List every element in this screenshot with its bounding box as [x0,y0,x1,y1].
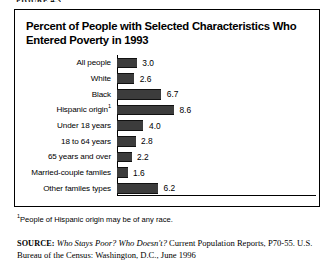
figure-footnote: 1People of Hispanic origin may be of any… [17,215,173,224]
bar-category-label: Under 18 years [15,121,117,130]
source-label: SOURCE: [17,239,55,248]
bar-wrapper: 2.6 [117,71,321,87]
bar-wrapper: 1.6 [117,165,321,181]
bar-row: White2.6 [15,71,321,87]
bar-value-label: 6.7 [167,89,179,99]
bar-value-label: 6.2 [164,183,176,193]
bar [117,152,132,163]
bar-row: Under 18 years4.0 [15,118,321,134]
bar-value-label: 1.6 [133,168,145,178]
bar [117,89,161,100]
bar-wrapper: 6.2 [117,181,321,197]
bar-row: 65 years and over2.2 [15,149,321,165]
source-publication-title: Who Stays Poor? Who Doesn't? [57,238,167,248]
bar-value-label: 2.2 [137,152,149,162]
bar-wrapper: 4.0 [117,118,321,134]
bar-rows: All people3.0White2.6Black6.7Hispanic or… [15,55,321,196]
bar-row: Other familes types6.2 [15,181,321,197]
bar-value-label: 8.6 [179,105,191,115]
bar [117,58,137,69]
bar [117,136,136,147]
category-footnote-marker: 1 [108,104,111,110]
bar-value-label: 2.8 [141,136,153,146]
bar-wrapper: 6.7 [117,86,321,102]
bar-category-label: 18 to 64 years [15,137,117,146]
bar-value-label: 4.0 [149,121,161,131]
bar-wrapper: 8.6 [117,102,321,118]
bar [117,167,128,178]
bar-row: Married-couple familes1.6 [15,165,321,181]
bar [117,120,143,131]
bar-row: 18 to 64 years2.8 [15,133,321,149]
bar-wrapper: 2.8 [117,133,321,149]
bar-category-label: Hispanic origin1 [15,105,117,114]
bar-wrapper: 3.0 [117,55,321,71]
figure-frame: Percent of People with Selected Characte… [14,9,320,207]
bar-category-label: Black [15,90,117,99]
bar-wrapper: 2.2 [117,149,321,165]
bar-category-label: 65 years and over [15,152,117,161]
bar-row: All people3.0 [15,55,321,71]
bar [117,105,174,116]
figure-title: Percent of People with Selected Characte… [26,20,310,47]
footnote-text: People of Hispanic origin may be of any … [20,215,173,224]
bar-category-label: All people [15,58,117,67]
clipped-figure-header: FIGURE 4.3 [16,0,61,2]
bar-category-label: Married-couple familes [15,168,117,177]
bar-category-label: Other familes types [15,184,117,193]
bar-value-label: 2.6 [140,74,152,84]
figure-source: SOURCE: Who Stays Poor? Who Doesn't? Cur… [17,238,317,261]
bar [117,183,158,194]
bar-category-label: White [15,74,117,83]
bar-row: Hispanic origin18.6 [15,102,321,118]
bar-row: Black6.7 [15,86,321,102]
bar-chart-plot-area: All people3.0White2.6Black6.7Hispanic or… [15,55,321,207]
bar-value-label: 3.0 [142,58,154,68]
bar [117,73,134,84]
